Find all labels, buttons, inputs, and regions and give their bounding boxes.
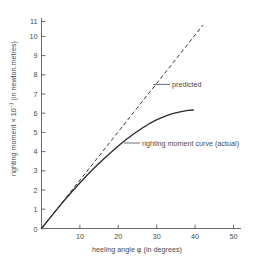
chart-background [0, 0, 264, 263]
y-tick-label-6: 6 [34, 109, 38, 118]
y-axis-title-units: (in newton.metres) [9, 41, 18, 103]
x-axis-title: heeling angle φ (in degrees) [92, 245, 182, 254]
predicted-label: predicted [172, 80, 202, 89]
annotation-actual: righting moment curve (actual) [124, 139, 239, 148]
y-tick-label-2: 2 [34, 186, 38, 195]
chart-figure: 0 1 2 3 4 5 6 7 8 9 10 11 righting momen… [0, 0, 264, 263]
righting-moment-chart: 0 1 2 3 4 5 6 7 8 9 10 11 righting momen… [0, 0, 264, 263]
y-tick-label-5: 5 [34, 128, 38, 137]
y-axis-title-main: righting moment × 10 [9, 108, 18, 176]
x-tick-label-20: 20 [114, 232, 122, 241]
x-tick-label-40: 40 [191, 232, 199, 241]
actual-label: righting moment curve (actual) [142, 139, 239, 148]
y-tick-label-11: 11 [30, 17, 37, 26]
x-tick-label-50: 50 [230, 232, 238, 241]
y-tick-label-3: 3 [34, 166, 38, 175]
x-tick-label-30: 30 [153, 232, 161, 241]
y-tick-label-8: 8 [34, 70, 38, 79]
y-tick-label-10: 10 [30, 32, 38, 41]
x-tick-label-10: 10 [76, 232, 84, 241]
y-tick-label-4: 4 [34, 147, 38, 156]
y-tick-label-9: 9 [34, 51, 38, 60]
y-tick-label-1: 1 [34, 205, 38, 214]
y-tick-label-7: 7 [34, 90, 38, 99]
y-tick-label-0: 0 [34, 225, 38, 234]
y-axis-title: righting moment × 10−1 (in newton.metres… [8, 41, 18, 176]
